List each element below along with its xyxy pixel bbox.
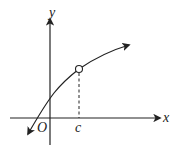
graph-svg bbox=[0, 0, 176, 153]
open-circle-hole bbox=[76, 66, 83, 73]
y-axis-label: y bbox=[49, 6, 55, 20]
origin-label: O bbox=[37, 121, 47, 135]
x-axis-label: x bbox=[163, 111, 169, 125]
function-graph-diagram: y x O c bbox=[0, 0, 176, 153]
c-label: c bbox=[75, 121, 81, 135]
